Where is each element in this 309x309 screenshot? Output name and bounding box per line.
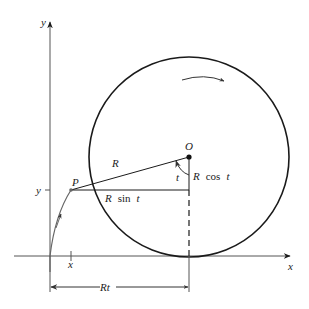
rotation-arrow <box>182 77 224 81</box>
y-axis-label: y <box>40 16 46 28</box>
y-tick-label: y <box>35 184 41 196</box>
horizontal-leg-label: R sin t <box>104 188 141 205</box>
arc-length-label: Rt <box>99 281 111 293</box>
x-axis-label: x <box>287 260 293 272</box>
radius-label: R <box>111 157 119 169</box>
center-point <box>186 154 191 159</box>
cycloid-diagram: y x O P R t R cos t R sin t y x R <box>0 0 309 309</box>
vertical-leg-label: R cos t <box>192 166 230 183</box>
x-tick-label: x <box>67 258 73 270</box>
angle-label: t <box>176 171 180 183</box>
point-p <box>69 188 73 192</box>
cycloid-curve <box>50 190 71 256</box>
center-label: O <box>185 140 193 152</box>
point-p-label: P <box>71 176 79 188</box>
